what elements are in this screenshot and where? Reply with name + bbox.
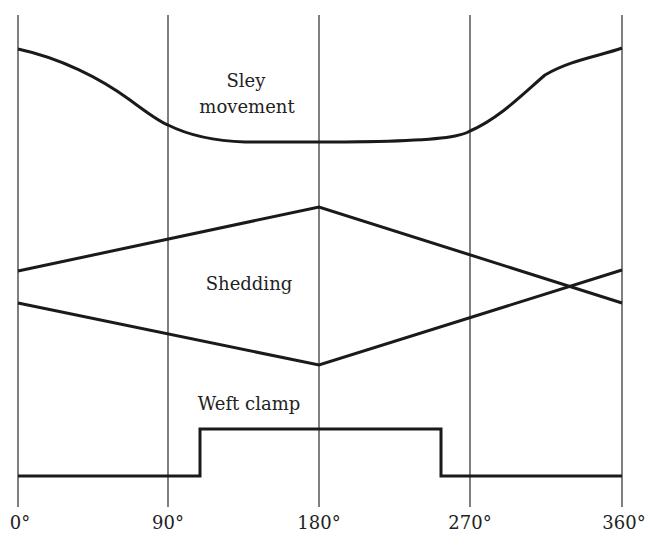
tick-270: 270°	[448, 512, 491, 533]
shedding-label: Shedding	[206, 273, 293, 294]
sley-movement-curve	[18, 48, 622, 142]
timing-diagram: Sley movement Shedding Weft clamp 0° 90°…	[0, 0, 651, 547]
tick-360: 360°	[602, 512, 645, 533]
tick-0: 0°	[10, 512, 30, 533]
tick-90: 90°	[152, 512, 184, 533]
weft-clamp-label: Weft clamp	[198, 393, 300, 414]
tick-180: 180°	[297, 512, 340, 533]
sley-label-line1: Sley	[227, 70, 267, 91]
sley-label-line2: movement	[199, 96, 295, 117]
shedding-upper-line	[18, 207, 622, 303]
weft-clamp-step	[18, 429, 622, 476]
x-axis-ticks: 0° 90° 180° 270° 360°	[10, 512, 646, 533]
shedding-lower-line	[18, 270, 622, 365]
